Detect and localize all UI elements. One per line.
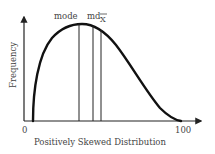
x-tick-0: 0 bbox=[22, 125, 27, 135]
y-axis-label: Frequency bbox=[8, 42, 18, 88]
skewed-distribution-chart: mode md X Frequency 0 100 Positively Ske… bbox=[0, 0, 215, 154]
distribution-curve bbox=[33, 24, 181, 121]
mean-label: X bbox=[100, 15, 106, 24]
median-label: md bbox=[87, 11, 101, 21]
mode-label: mode bbox=[54, 11, 78, 21]
x-tick-100: 100 bbox=[175, 125, 191, 135]
chart-title: Positively Skewed Distribution bbox=[34, 137, 166, 147]
